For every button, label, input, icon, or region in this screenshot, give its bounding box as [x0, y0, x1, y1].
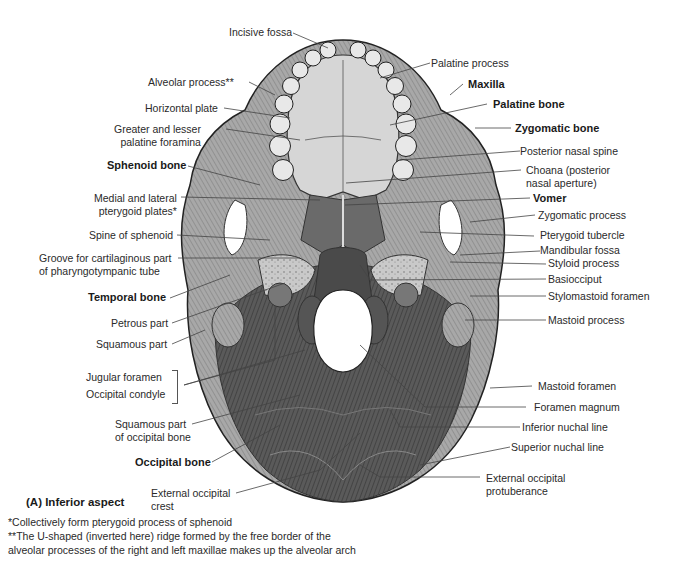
skull-inferior-diagram: Incisive fossa Alveolar process** Horizo… [0, 0, 687, 564]
label-mandibular-fossa: Mandibular fossa [540, 244, 620, 257]
label-vomer: Vomer [533, 192, 566, 205]
label-greater-lesser-palatine-foramina: Greater and lesser palatine foramina [114, 123, 201, 149]
label-foramen-magnum: Foramen magnum [534, 401, 620, 414]
label-squamous-part: Squamous part [96, 338, 167, 351]
label-zygomatic-process: Zygomatic process [538, 209, 626, 222]
label-zygomatic-bone: Zygomatic bone [515, 122, 599, 135]
label-sphenoid-bone: Sphenoid bone [107, 159, 186, 172]
label-maxilla: Maxilla [468, 78, 505, 91]
label-groove-pharyngotympanic-tube: Groove for cartilaginous part of pharyng… [39, 252, 171, 278]
footnote-1: *Collectively form pterygoid process of … [8, 516, 232, 529]
jugular-condyle-bracket [172, 370, 178, 404]
label-styloid-process: Styloid process [548, 257, 619, 270]
label-choana: Choana (posterior nasal aperture) [526, 164, 610, 190]
label-jugular-foramen: Jugular foramen [86, 371, 162, 384]
figure-caption: (A) Inferior aspect [26, 496, 124, 508]
label-basiocciput: Basiocciput [548, 273, 602, 286]
label-pterygoid-tubercle: Pterygoid tubercle [540, 229, 625, 242]
label-temporal-bone: Temporal bone [88, 291, 166, 304]
label-occipital-bone: Occipital bone [135, 456, 211, 469]
label-mastoid-foramen: Mastoid foramen [538, 380, 616, 393]
label-horizontal-plate: Horizontal plate [145, 102, 218, 115]
label-incisive-fossa: Incisive fossa [229, 26, 292, 39]
label-mastoid-process: Mastoid process [548, 314, 624, 327]
label-occipital-condyle: Occipital condyle [86, 388, 165, 401]
label-external-occipital-crest: External occipital crest [151, 487, 230, 513]
label-squamous-part-occipital: Squamous part of occipital bone [115, 418, 191, 444]
label-alveolar-process: Alveolar process** [148, 76, 234, 89]
label-external-occipital-protuberance: External occipital protuberance [486, 472, 565, 498]
footnote-3: alveolar processes of the right and left… [8, 544, 356, 557]
label-superior-nuchal-line: Superior nuchal line [511, 441, 604, 454]
label-inferior-nuchal-line: Inferior nuchal line [522, 421, 608, 434]
label-palatine-bone: Palatine bone [493, 98, 565, 111]
label-palatine-process: Palatine process [431, 57, 509, 70]
label-spine-of-sphenoid: Spine of sphenoid [89, 229, 173, 242]
label-medial-lateral-pterygoid-plates: Medial and lateral pterygoid plates* [94, 192, 177, 218]
label-petrous-part: Petrous part [111, 317, 168, 330]
footnote-2: **The U-shaped (inverted here) ridge for… [8, 530, 331, 543]
label-stylomastoid-foramen: Stylomastoid foramen [548, 290, 650, 303]
label-posterior-nasal-spine: Posterior nasal spine [520, 145, 618, 158]
foramen-magnum-shape [314, 290, 373, 372]
